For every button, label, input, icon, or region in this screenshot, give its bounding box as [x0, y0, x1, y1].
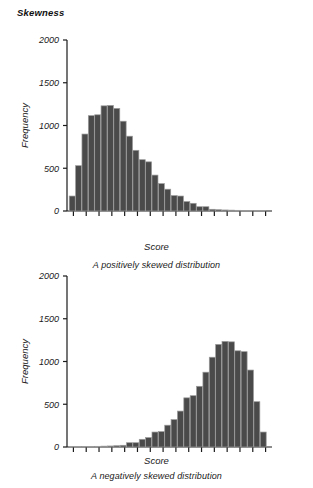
histogram-bar [171, 420, 177, 447]
histogram-bar [184, 202, 190, 211]
x-axis-title-positive: Score [0, 241, 313, 252]
histogram-bar [69, 196, 75, 211]
histogram-bar [235, 351, 241, 447]
histogram-bar [235, 210, 241, 211]
histogram-bar [133, 443, 139, 447]
histogram-bar [209, 357, 215, 447]
y-axis-tick-label: 0 [54, 206, 59, 216]
histogram-bar [101, 106, 107, 211]
histogram-bar [152, 175, 158, 211]
y-axis-tick-label: 1000 [39, 357, 59, 367]
histogram-bar [152, 432, 158, 447]
caption-negative: A negatively skewed distribution [0, 471, 313, 481]
histogram-bar [177, 411, 183, 447]
y-axis-tick-label: 2000 [38, 271, 59, 281]
y-axis-tick-label: 500 [44, 164, 59, 174]
histogram-bar [95, 446, 101, 447]
histogram-bar [88, 116, 94, 211]
histogram-bar [107, 446, 113, 447]
y-axis-tick-label: 500 [44, 400, 59, 410]
histogram-bar [203, 207, 209, 211]
histogram-bar [254, 210, 260, 211]
histogram-bar [120, 445, 126, 447]
histogram-bar [184, 398, 190, 447]
histogram-negative-svg: 0500100015002000Frequency [0, 258, 313, 488]
histogram-bar [171, 196, 177, 211]
histogram-bar [114, 108, 120, 211]
histogram-bar [222, 341, 228, 447]
histogram-bar [260, 432, 266, 447]
chart-positively-skewed: 0500100015002000Frequency Score A positi… [0, 22, 313, 252]
histogram-bar [95, 115, 101, 211]
histogram-bar [82, 446, 88, 447]
histogram-bar [158, 184, 164, 211]
histogram-bar [241, 210, 247, 211]
histogram-bar [247, 370, 253, 447]
histogram-bar [146, 162, 152, 211]
histogram-bar [139, 160, 145, 211]
histogram-bar [127, 136, 133, 211]
histogram-bar [197, 207, 203, 211]
histogram-bar [114, 446, 120, 447]
y-axis-tick-label: 0 [54, 442, 59, 452]
histogram-bar [139, 439, 145, 447]
histogram-bar [165, 425, 171, 447]
histogram-bar [146, 438, 152, 447]
histogram-bar [76, 446, 82, 447]
histogram-bar [101, 446, 107, 447]
histogram-bar [177, 196, 183, 211]
histogram-bar [76, 166, 82, 211]
histogram-bar [107, 105, 113, 211]
histogram-bar [127, 443, 133, 447]
page-title: Skewness [17, 7, 65, 18]
y-axis-title: Frequency [19, 102, 30, 148]
y-axis-tick-label: 1000 [39, 121, 59, 131]
histogram-positive-svg: 0500100015002000Frequency [0, 22, 313, 252]
histogram-bar [260, 210, 266, 211]
histogram-bar [216, 344, 222, 447]
y-axis-tick-label: 2000 [38, 35, 59, 45]
histogram-bar [120, 121, 126, 211]
histogram-bar [133, 150, 139, 211]
histogram-bar [197, 386, 203, 447]
histogram-bar [165, 189, 171, 211]
histogram-bar [216, 210, 222, 211]
histogram-bar [228, 210, 234, 211]
histogram-bar [158, 432, 164, 447]
histogram-bar [82, 134, 88, 211]
histogram-bar [254, 402, 260, 447]
histogram-bar [247, 210, 253, 211]
y-axis-title: Frequency [19, 338, 30, 384]
chart-negatively-skewed: 0500100015002000Frequency [0, 258, 313, 488]
histogram-bar [203, 372, 209, 447]
histogram-bar [241, 352, 247, 447]
histogram-bar [190, 203, 196, 211]
histogram-bar [222, 210, 228, 211]
histogram-bar [228, 342, 234, 447]
histogram-bar [69, 446, 75, 447]
histogram-bar [88, 446, 94, 447]
skewness-figure-page: Skewness 0500100015002000Frequency Score… [0, 0, 313, 488]
histogram-bar [209, 209, 215, 211]
histogram-bar [190, 396, 196, 447]
y-axis-tick-label: 1500 [39, 314, 59, 324]
x-axis-title-negative: Score [0, 455, 313, 466]
y-axis-tick-label: 1500 [39, 78, 59, 88]
